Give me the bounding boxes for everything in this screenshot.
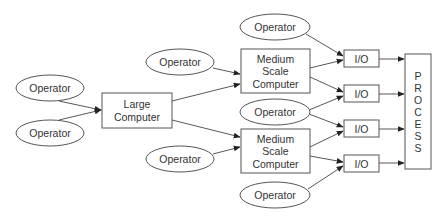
- node-label: Scale: [262, 145, 288, 157]
- node-op-right-top: Operator: [240, 14, 310, 40]
- node-label: Scale: [262, 65, 288, 77]
- node-label: P: [414, 70, 421, 82]
- node-op-right-middle: Operator: [240, 99, 310, 125]
- node-label: Operator: [254, 21, 296, 33]
- node-process: PROCESS: [405, 54, 431, 169]
- node-label: Operator: [254, 106, 296, 118]
- node-io-1: I/O: [344, 50, 379, 67]
- node-medium-computer-2: MediumScaleComputer: [241, 129, 310, 173]
- nodes-layer: OperatorOperatorLargeComputerOperatorOpe…: [16, 14, 431, 208]
- node-label: Computer: [114, 111, 161, 123]
- edge-medium-computer-2-to-io-4: [310, 156, 343, 162]
- edge-op-mid-top-to-medium-computer-1: [213, 68, 240, 74]
- node-label: Operator: [29, 127, 71, 139]
- edge-large-computer-to-medium-computer-2: [172, 120, 240, 137]
- node-label: S: [414, 142, 421, 154]
- edge-op-right-bottom-to-io-4: [308, 166, 343, 189]
- node-label: O: [414, 94, 422, 106]
- node-label: I/O: [354, 88, 368, 100]
- edge-op-mid-bottom-to-medium-computer-2: [213, 147, 240, 154]
- edge-op-left-top-to-large-computer: [59, 101, 101, 110]
- node-label: I/O: [354, 123, 368, 135]
- node-io-2: I/O: [344, 85, 379, 102]
- edge-op-right-top-to-io-1: [306, 34, 343, 56]
- node-label: Computer: [252, 158, 299, 170]
- node-label: S: [414, 130, 421, 142]
- node-label: Operator: [254, 189, 296, 201]
- node-op-mid-top: Operator: [146, 49, 214, 75]
- node-label: Medium: [257, 53, 295, 65]
- edge-large-computer-to-medium-computer-1: [172, 84, 240, 101]
- node-label: I/O: [354, 158, 368, 170]
- node-medium-computer-1: MediumScaleComputer: [241, 49, 310, 93]
- node-op-mid-bottom: Operator: [146, 146, 214, 172]
- node-label: Large: [124, 98, 151, 110]
- edge-medium-computer-1-to-io-2: [310, 77, 343, 92]
- node-op-left-top: Operator: [16, 75, 84, 101]
- node-io-4: I/O: [344, 155, 379, 172]
- edge-op-right-middle-to-io-2: [309, 96, 343, 110]
- node-op-right-bottom: Operator: [240, 182, 310, 208]
- edge-op-right-middle-to-io-3: [309, 114, 343, 127]
- node-label: Computer: [252, 78, 299, 90]
- node-label: Operator: [29, 82, 71, 94]
- node-io-3: I/O: [344, 120, 379, 137]
- node-label: R: [414, 82, 422, 94]
- node-label: C: [414, 106, 422, 118]
- node-label: Medium: [257, 133, 295, 145]
- computer-hierarchy-diagram: OperatorOperatorLargeComputerOperatorOpe…: [0, 0, 448, 218]
- node-label: E: [414, 118, 421, 130]
- node-op-left-bottom: Operator: [16, 120, 84, 146]
- node-label: Operator: [159, 153, 201, 165]
- node-label: Operator: [159, 56, 201, 68]
- node-large-computer: LargeComputer: [102, 93, 172, 128]
- edge-medium-computer-2-to-io-3: [310, 131, 343, 147]
- edge-op-left-bottom-to-large-computer: [59, 110, 101, 120]
- node-label: I/O: [354, 53, 368, 65]
- edge-medium-computer-1-to-io-1: [310, 60, 343, 68]
